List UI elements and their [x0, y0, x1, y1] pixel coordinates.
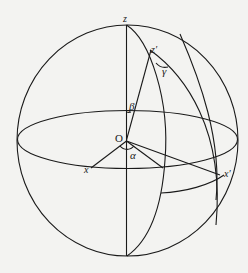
sphere-outline: [17, 25, 238, 256]
label-alpha: α: [130, 150, 136, 161]
label-x-prime: x′: [224, 169, 231, 179]
sphere-drawing: [0, 0, 248, 273]
label-origin: O: [115, 133, 123, 144]
label-z-prime: z′: [151, 45, 157, 55]
sphere-diagram: z z′ γ β O α x x′: [0, 0, 248, 273]
equator-ellipse: [18, 111, 238, 169]
o-to-z-prime: [127, 50, 152, 140]
o-to-x-prime: [127, 141, 221, 175]
o-to-x: [91, 141, 127, 168]
arc-to-x-prime: [161, 175, 224, 193]
label-x: x: [84, 165, 88, 175]
meridian-z-prime: [127, 25, 166, 256]
label-gamma: γ: [162, 66, 166, 77]
label-z: z: [123, 14, 127, 24]
label-beta: β: [129, 101, 134, 112]
